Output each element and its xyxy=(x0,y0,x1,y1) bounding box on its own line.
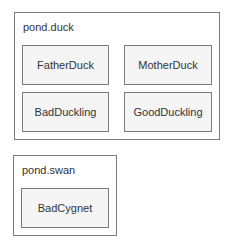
class-good-duckling: GoodDuckling xyxy=(124,92,212,132)
class-father-duck: FatherDuck xyxy=(22,45,109,85)
class-bad-cygnet: BadCygnet xyxy=(21,188,109,228)
class-mother-duck: MotherDuck xyxy=(124,45,212,85)
package-label: pond.duck xyxy=(23,21,74,34)
package-label: pond.swan xyxy=(22,164,75,177)
class-bad-duckling: BadDuckling xyxy=(22,92,109,132)
